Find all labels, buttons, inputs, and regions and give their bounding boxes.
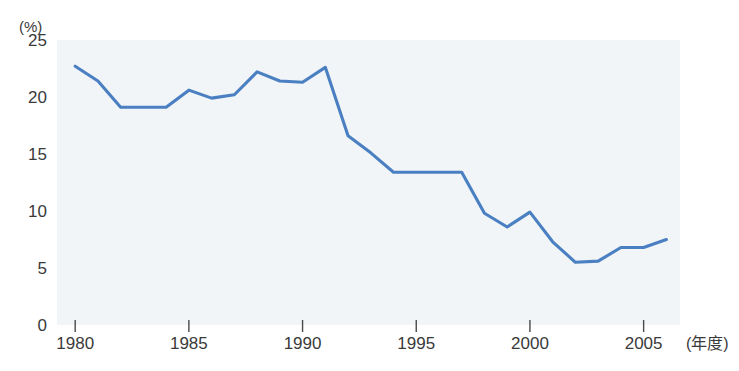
y-axis-tick-labels: 0510152025 xyxy=(28,31,47,335)
y-axis-tick-label: 10 xyxy=(28,202,47,221)
y-axis-tick-label: 20 xyxy=(28,88,47,107)
y-axis-tick-label: 15 xyxy=(28,145,47,164)
x-axis-tick-label: 1985 xyxy=(170,334,208,353)
x-axis-title: (年度) xyxy=(686,335,729,352)
chart-canvas: 0510152025 198019851990199520002005 (%) … xyxy=(0,0,739,371)
plot-area-background xyxy=(57,40,680,325)
y-axis-tick-label: 0 xyxy=(38,316,47,335)
x-axis-tick-label: 2000 xyxy=(511,334,549,353)
y-axis-tick-label: 5 xyxy=(38,259,47,278)
x-axis-tick-label: 1995 xyxy=(397,334,435,353)
x-axis-tick-label: 1990 xyxy=(284,334,322,353)
x-axis-tick-label: 2005 xyxy=(625,334,663,353)
y-axis-unit-label: (%) xyxy=(19,18,42,35)
line-chart: 0510152025 198019851990199520002005 (%) … xyxy=(0,0,739,371)
x-axis-tick-label: 1980 xyxy=(56,334,94,353)
x-axis-tick-labels: 198019851990199520002005 xyxy=(56,334,662,353)
